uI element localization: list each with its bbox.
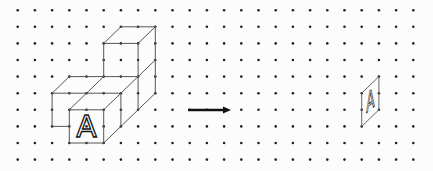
grid-dot: [34, 26, 37, 29]
grid-dot: [309, 109, 312, 112]
grid-dot: [102, 158, 105, 161]
grid-dot: [309, 26, 312, 29]
grid-dot: [188, 92, 191, 95]
grid-dot: [16, 158, 19, 161]
grid-dot: [274, 92, 277, 95]
grid-dot: [188, 26, 191, 29]
grid-dot: [223, 125, 226, 128]
dot-grid-diagram: A A: [0, 0, 433, 171]
grid-dot: [120, 59, 123, 62]
grid-dot: [395, 125, 398, 128]
grid-dot: [223, 75, 226, 78]
grid-dot: [188, 125, 191, 128]
grid-dot: [223, 142, 226, 145]
grid-dot: [240, 59, 243, 62]
solid-edge: [104, 126, 121, 143]
grid-dot: [154, 125, 157, 128]
grid-dot: [274, 142, 277, 145]
grid-dot: [326, 59, 329, 62]
grid-dot: [395, 9, 398, 12]
grid-dot: [309, 59, 312, 62]
letter-a: A: [76, 109, 97, 144]
grid-dot: [34, 9, 37, 12]
grid-dot: [412, 109, 415, 112]
grid-dot: [171, 9, 174, 12]
grid-dot: [51, 42, 54, 45]
grid-dot: [395, 42, 398, 45]
grid-dot: [171, 109, 174, 112]
grid-dot: [309, 125, 312, 128]
grid-dot: [137, 125, 140, 128]
grid-dot: [395, 142, 398, 145]
grid-dot: [171, 125, 174, 128]
grid-dot: [378, 142, 381, 145]
grid-dot: [343, 59, 346, 62]
grid-dot: [154, 142, 157, 145]
grid-dot: [240, 92, 243, 95]
grid-dot: [85, 158, 88, 161]
grid-dot: [395, 59, 398, 62]
grid-dot: [16, 59, 19, 62]
grid-dot: [51, 142, 54, 145]
grid-dot: [326, 142, 329, 145]
grid-dot: [292, 42, 295, 45]
grid-dot: [16, 26, 19, 29]
grid-dot: [85, 26, 88, 29]
grid-dot: [206, 125, 209, 128]
grid-dot: [206, 42, 209, 45]
grid-dot: [85, 42, 88, 45]
grid-dot: [34, 59, 37, 62]
grid-dot: [188, 75, 191, 78]
grid-dot: [395, 109, 398, 112]
grid-dot: [292, 125, 295, 128]
grid-dot: [309, 75, 312, 78]
grid-dot: [206, 26, 209, 29]
grid-dot: [223, 59, 226, 62]
grid-dot: [360, 42, 363, 45]
grid-dot: [257, 142, 260, 145]
grid-dot: [326, 92, 329, 95]
grid-dot: [68, 42, 71, 45]
grid-dot: [240, 26, 243, 29]
grid-dot: [412, 42, 415, 45]
grid-dot: [274, 42, 277, 45]
grid-dot: [240, 42, 243, 45]
grid-dot: [51, 158, 54, 161]
grid-dot: [257, 92, 260, 95]
grid-dot: [206, 142, 209, 145]
grid-dot: [292, 26, 295, 29]
grid-dot: [326, 9, 329, 12]
grid-dot: [326, 125, 329, 128]
grid-dot: [102, 26, 105, 29]
grid-dot: [206, 75, 209, 78]
solid-edge: [138, 60, 155, 77]
grid-dot: [223, 92, 226, 95]
grid-dot: [309, 92, 312, 95]
grid-dot: [412, 142, 415, 145]
grid-dot: [360, 59, 363, 62]
isometric-solid: [52, 27, 155, 143]
transform-arrow-icon: [188, 107, 231, 114]
grid-dot: [257, 9, 260, 12]
grid-dot: [343, 26, 346, 29]
grid-dot: [257, 109, 260, 112]
grid-dot: [257, 125, 260, 128]
grid-dot: [343, 9, 346, 12]
grid-dot: [326, 109, 329, 112]
grid-dot: [68, 26, 71, 29]
grid-dot: [240, 75, 243, 78]
grid-dot: [343, 92, 346, 95]
grid-dot: [188, 158, 191, 161]
grid-dot: [206, 59, 209, 62]
grid-dot: [51, 59, 54, 62]
grid-dot: [240, 9, 243, 12]
grid-dot: [137, 158, 140, 161]
grid-dot: [16, 9, 19, 12]
grid-dot: [120, 158, 123, 161]
grid-dot: [257, 59, 260, 62]
grid-dot: [343, 125, 346, 128]
solid-edge: [138, 27, 155, 44]
grid-dot: [34, 42, 37, 45]
grid-dot: [137, 9, 140, 12]
grid-dot: [16, 125, 19, 128]
